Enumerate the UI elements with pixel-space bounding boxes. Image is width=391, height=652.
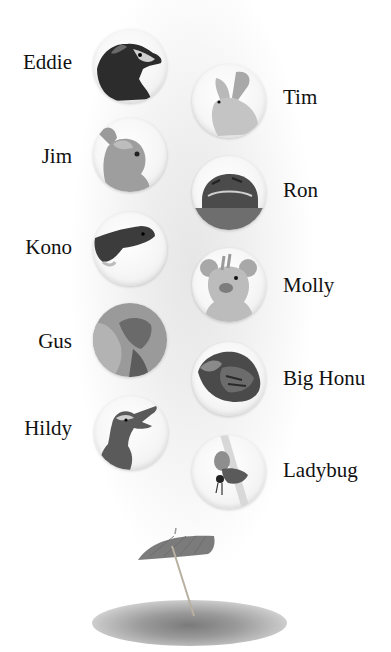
portrait-gus xyxy=(93,303,167,377)
raccoon-icon xyxy=(93,29,167,103)
label-hildy: Hildy xyxy=(0,418,72,439)
label-big-honu: Big Honu xyxy=(283,368,365,389)
ladybug-icon xyxy=(192,435,266,509)
portrait-ladybug xyxy=(192,435,266,509)
rabbit-icon xyxy=(192,64,266,138)
portrait-hildy xyxy=(94,396,168,470)
sea-turtle-icon xyxy=(192,342,266,416)
mouse-icon xyxy=(192,248,266,322)
label-jim: Jim xyxy=(0,146,72,167)
duck-icon xyxy=(94,396,168,470)
label-ladybug: Ladybug xyxy=(283,460,358,481)
portrait-kono xyxy=(93,212,167,286)
portrait-eddie xyxy=(93,29,167,103)
label-eddie: Eddie xyxy=(0,52,72,73)
portrait-ron xyxy=(192,156,266,230)
label-tim: Tim xyxy=(283,87,317,108)
portrait-molly xyxy=(192,248,266,322)
cocktail-umbrella-icon xyxy=(130,528,230,628)
lizard-icon xyxy=(93,303,167,377)
label-gus: Gus xyxy=(0,331,72,352)
frog-icon xyxy=(192,156,266,230)
label-kono: Kono xyxy=(0,237,72,258)
label-molly: Molly xyxy=(283,275,334,296)
gecko-icon xyxy=(93,212,167,286)
portrait-big-honu xyxy=(192,342,266,416)
label-ron: Ron xyxy=(283,180,318,201)
bird-icon xyxy=(93,118,167,192)
portrait-jim xyxy=(93,118,167,192)
portrait-tim xyxy=(192,64,266,138)
